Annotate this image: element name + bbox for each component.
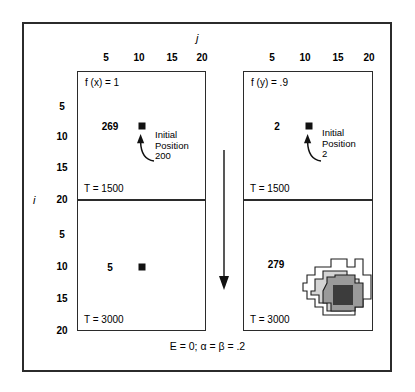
panel-bottom-right: 279 T = 3000: [243, 200, 373, 331]
panel-top-right-annotation: Initial Position 2: [322, 128, 356, 160]
y-tick-top-5: 5: [59, 101, 65, 112]
x-tick-left-20: 20: [196, 52, 207, 63]
x-tick-left-5: 5: [103, 52, 109, 63]
panel-top-left-annotation: Initial Position 200: [155, 130, 189, 162]
site-marker: [306, 123, 313, 130]
y-tick-top-10: 10: [56, 131, 67, 142]
panel-bottom-right-count: 279: [268, 259, 285, 270]
panel-top-left-count: 269: [102, 121, 119, 132]
panel-bottom-left-count: 5: [107, 262, 113, 273]
panel-top-right-count: 2: [274, 121, 280, 132]
x-axis-label: j: [196, 32, 198, 44]
panel-top-left: f (x) = 1 269 Initial Position 200 T = 1…: [77, 71, 206, 200]
contour-level-4: [333, 285, 353, 305]
panel-bottom-right-time-label: T = 3000: [250, 314, 290, 325]
x-tick-left-15: 15: [166, 52, 177, 63]
panel-top-left-time-label: T = 1500: [84, 183, 124, 194]
x-tick-right-20: 20: [363, 52, 374, 63]
occupancy-contour-cluster: [301, 249, 377, 325]
y-tick-bottom-10: 10: [56, 261, 67, 272]
x-tick-right-5: 5: [269, 52, 275, 63]
panel-bottom-left-time-label: T = 3000: [84, 314, 124, 325]
x-tick-right-10: 10: [299, 52, 310, 63]
time-flow-arrow-icon: [206, 150, 242, 292]
y-tick-bottom-5: 5: [59, 229, 65, 240]
y-tick-top-20: 20: [56, 194, 67, 205]
panel-bottom-left: 5 T = 3000: [77, 200, 206, 331]
panel-top-right-function-label: f (y) = .9: [251, 77, 288, 88]
x-axis-ticks-left: 5 10 15 20 5 10 15 20: [0, 52, 415, 66]
panel-top-right-time-label: T = 1500: [250, 183, 290, 194]
figure-canvas: j i 5 10 15 20 5 10 15 20 5 10 15 20 5 1…: [0, 0, 415, 392]
y-tick-bottom-15: 15: [56, 293, 67, 304]
site-marker: [139, 123, 146, 130]
y-axis-label: i: [33, 194, 35, 206]
x-tick-left-10: 10: [133, 52, 144, 63]
y-tick-top-15: 15: [56, 162, 67, 173]
site-marker: [139, 264, 146, 271]
x-tick-right-15: 15: [332, 52, 343, 63]
y-tick-bottom-20: 20: [56, 325, 67, 336]
figure-caption: E = 0; α = β = .2: [0, 340, 415, 352]
panel-top-left-function-label: f (x) = 1: [85, 77, 119, 88]
panel-top-right: f (y) = .9 2 Initial Position 2 T = 1500: [243, 71, 373, 200]
